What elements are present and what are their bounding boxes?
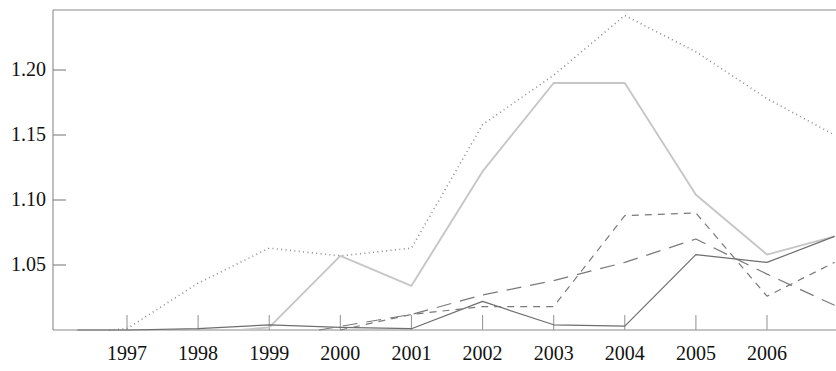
x-tick-label: 2005 [676,342,716,364]
x-tick-label: 2004 [605,342,645,364]
x-tick-labels: 1997199819992000200120022003200420052006 [107,342,787,364]
x-tick-label: 2006 [747,342,787,364]
y-tick-labels: 1.201.151.101.05 [11,58,46,275]
series-light-gray [241,83,835,330]
y-tick-label: 1.15 [11,123,46,145]
x-tick-label: 2001 [391,342,431,364]
y-tick-label: 1.05 [11,253,46,275]
x-tick-label: 2003 [534,342,574,364]
x-tick-label: 1999 [249,342,289,364]
y-tick-label: 1.20 [11,58,46,80]
y-tick-marks [53,70,66,265]
chart-canvas: 1.201.151.101.05 19971998199920002001200… [0,0,836,371]
series-solid-dark [77,236,834,330]
series-dotted [109,15,834,330]
x-tick-label: 1998 [178,342,218,364]
line-chart: 1.201.151.101.05 19971998199920002001200… [0,0,836,371]
data-series-group [77,15,834,330]
x-tick-label: 2000 [320,342,360,364]
y-tick-label: 1.10 [11,188,46,210]
x-tick-label: 2002 [463,342,503,364]
x-tick-label: 1997 [107,342,147,364]
